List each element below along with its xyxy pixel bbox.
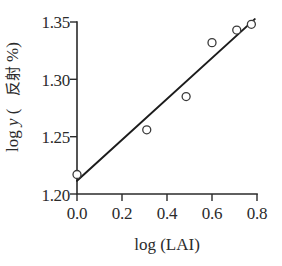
y-axis-title-cjk: 反射 (4, 66, 22, 96)
y-tick-labels: 1.35 1.30 1.25 1.20 (41, 13, 70, 205)
x-tick-marks (77, 194, 257, 201)
x-axis-title: log (LAI) (134, 235, 200, 254)
y-axis-title-text: log y ( (3, 108, 22, 152)
x-tick-label-00: 0.0 (67, 204, 87, 223)
y-title-percent: % (3, 48, 22, 62)
data-point (233, 26, 241, 34)
x-tick-labels: 0.0 0.2 0.4 0.6 0.8 (67, 204, 267, 223)
data-point (208, 39, 216, 47)
data-point (143, 126, 151, 134)
scatter-plot-svg: log y ( 反射 %) 1.35 1.30 1.25 1.20 (0, 0, 282, 266)
axis-spines (77, 22, 257, 194)
data-point (247, 20, 255, 28)
y-tick-label-130: 1.30 (41, 71, 70, 90)
y-title-paren-close: ) (3, 42, 22, 48)
y-tick-label-135: 1.35 (41, 13, 70, 32)
x-tick-label-08: 0.8 (247, 204, 267, 223)
y-title-paren-open: ( (3, 108, 22, 118)
chart-figure: log y ( 反射 %) 1.35 1.30 1.25 1.20 (0, 0, 282, 266)
x-tick-label-02: 0.2 (112, 204, 132, 223)
y-tick-label-125: 1.25 (41, 128, 70, 147)
y-axis-title: log y ( 反射 %) (3, 42, 22, 152)
y-tick-label-120: 1.20 (41, 186, 70, 205)
y-title-prefix: log (3, 126, 22, 152)
data-point (73, 171, 81, 179)
y-axis-title-suffix: %) (3, 42, 22, 62)
y-tick-marks (70, 22, 77, 194)
y-title-variable: y (3, 118, 22, 128)
x-tick-label-04: 0.4 (157, 204, 178, 223)
x-tick-label-06: 0.6 (202, 204, 222, 223)
regression-fit-line (77, 19, 255, 181)
data-point (182, 93, 190, 101)
